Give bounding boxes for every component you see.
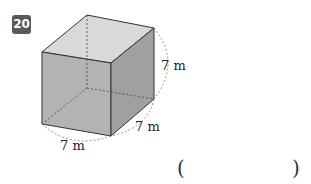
depth-label: 7 m — [135, 119, 160, 134]
cube-diagram: 7 m 7 m 7 m — [0, 0, 311, 184]
cube-front-face — [42, 52, 111, 136]
answer-open-paren: ( — [177, 156, 185, 180]
answer-close-paren: ) — [292, 156, 300, 180]
height-label: 7 m — [161, 58, 186, 73]
answer-blank[interactable] — [192, 158, 288, 180]
width-label: 7 m — [60, 138, 85, 153]
